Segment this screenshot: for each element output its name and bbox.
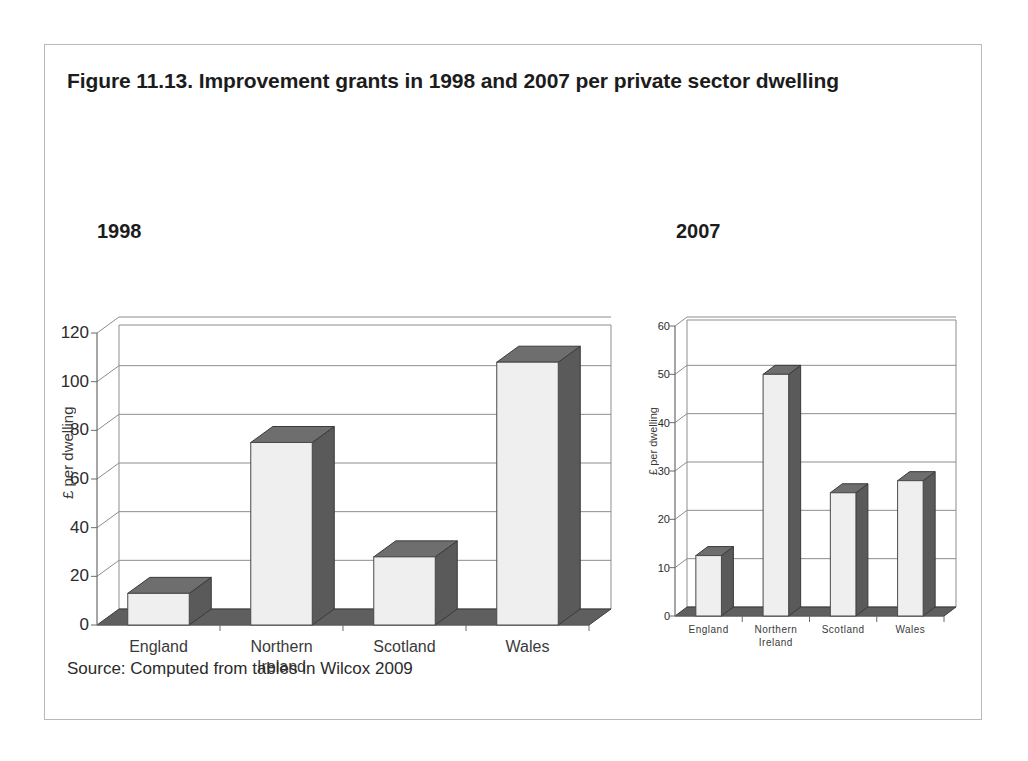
x-tick-label: England	[94, 637, 224, 657]
chart-1998: £ per dwelling 020406080100120 EnglandNo…	[57, 263, 627, 643]
figure-container: Figure 11.13. Improvement grants in 1998…	[44, 44, 982, 720]
bar-northern-ireland	[251, 427, 335, 626]
y-tick-label: 80	[47, 420, 89, 440]
y-tick-label: 40	[644, 417, 670, 429]
y-tick-label: 10	[644, 562, 670, 574]
bar-wales	[898, 472, 936, 616]
y-tick-label: 20	[644, 513, 670, 525]
figure-title: Figure 11.13. Improvement grants in 1998…	[67, 65, 927, 96]
panel-heading-1998: 1998	[97, 220, 142, 243]
y-tick-label: 0	[644, 610, 670, 622]
bar-england	[696, 547, 734, 616]
y-tick-label: 20	[47, 566, 89, 586]
bar-scotland	[374, 541, 458, 625]
y-tick-label: 0	[47, 615, 89, 635]
bar-wales	[497, 346, 581, 625]
bar-scotland	[830, 484, 868, 616]
y-tick-label: 60	[47, 469, 89, 489]
y-tick-label: 60	[644, 320, 670, 332]
x-tick-label: Wales	[463, 637, 593, 657]
y-tick-label: 120	[47, 323, 89, 343]
bar-northern-ireland	[763, 365, 801, 616]
x-tick-label: Scotland	[340, 637, 470, 657]
chart-2007: £ per dwelling 0102030405060 EnglandNort…	[645, 263, 975, 643]
y-tick-label: 40	[47, 518, 89, 538]
source-note: Source: Computed from tables in Wilcox 2…	[67, 659, 413, 679]
y-tick-label: 50	[644, 368, 670, 380]
bar-england	[128, 577, 212, 625]
y-tick-label: 100	[47, 372, 89, 392]
plot-area-1998	[97, 309, 617, 639]
panel-heading-2007: 2007	[676, 220, 721, 243]
plot-area-2007	[675, 311, 960, 626]
y-tick-label: 30	[644, 465, 670, 477]
